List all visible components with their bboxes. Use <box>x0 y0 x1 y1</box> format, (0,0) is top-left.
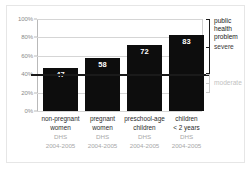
legend-label-severe: severe <box>214 43 234 51</box>
legend-label-moderate: moderate <box>214 79 242 87</box>
bar-children-under-2-years[interactable]: 83 <box>169 35 204 111</box>
bar-preschool-age-children[interactable]: 72 <box>127 45 162 111</box>
tick-moderate <box>206 83 210 84</box>
bar-value-label: 72 <box>127 48 162 56</box>
ytick-label-80: 80% <box>21 34 33 40</box>
ytick-label-60: 60% <box>21 53 33 59</box>
plot-area: 100% 80% 60% 40% 20% 0% 47 58 72 83 <box>37 19 202 111</box>
reference-line-40 <box>31 74 209 76</box>
x-label-source: DHS <box>159 133 214 142</box>
x-label-years: 2004-2005 <box>159 142 214 151</box>
ytick-label-20: 20% <box>21 90 33 96</box>
chart-figure: 100% 80% 60% 40% 20% 0% 47 58 72 83 <box>0 0 251 170</box>
legend-label-public-health-problem: public health problem <box>214 17 238 42</box>
severity-legend: public health problem severe moderate <box>204 19 249 111</box>
x-label-children-under-2-years: children < 2 years DHS 2004-2005 <box>159 115 214 150</box>
bar-value-label: 58 <box>85 61 120 69</box>
ytick-label-100: 100% <box>18 16 33 22</box>
x-label-line2: < 2 years <box>159 124 214 133</box>
x-label-line1: children <box>159 115 214 124</box>
x-axis-labels: non-pregnant women DHS 2004-2005 pregnan… <box>37 115 202 163</box>
bar-value-label: 83 <box>169 38 204 46</box>
tick-severe <box>206 47 210 48</box>
ytick-label-0: 0% <box>25 108 33 114</box>
bar-series: 47 58 72 83 <box>37 19 202 111</box>
bar-pregnant-women[interactable]: 58 <box>85 58 120 111</box>
gridline-0 <box>37 111 202 112</box>
